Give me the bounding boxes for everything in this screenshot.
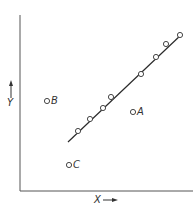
y-axis-label: Y [7,98,13,108]
x-axis-label: X [94,195,101,205]
data-point [177,32,182,37]
outlier-point-a [130,109,135,114]
outlier-points [44,98,135,167]
outlier-label-a: A [137,107,144,117]
y-arrowhead-icon [9,80,13,86]
data-point [75,128,80,133]
fit-line [68,34,182,142]
outlier-label-b: B [51,96,58,106]
outlier-point-c [66,162,71,167]
data-points [75,32,182,133]
x-arrowhead-icon [112,198,118,202]
outlier-point-b [44,98,49,103]
data-point [87,116,92,121]
outlier-label-c: C [73,160,80,170]
data-point [153,54,158,59]
scatter-diagram [0,0,196,208]
data-point [163,41,168,46]
data-point [108,94,113,99]
data-point [138,71,143,76]
data-point [100,105,105,110]
